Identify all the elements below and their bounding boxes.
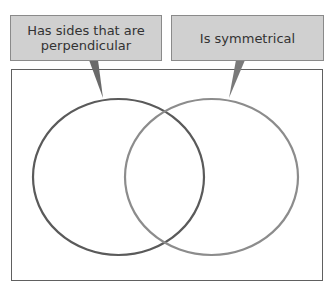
label-symmetrical: Is symmetrical [171, 15, 324, 61]
label-symmetrical-text: Is symmetrical [200, 31, 295, 46]
label-perpendicular-line2: perpendicular [27, 38, 145, 53]
right-label-pointer [229, 60, 245, 98]
label-perpendicular-line1: Has sides that are [27, 23, 145, 38]
label-perpendicular: Has sides that are perpendicular [10, 15, 162, 61]
set-circle-perpendicular [33, 99, 204, 255]
set-circle-symmetrical [125, 99, 298, 255]
left-label-pointer [89, 60, 103, 98]
